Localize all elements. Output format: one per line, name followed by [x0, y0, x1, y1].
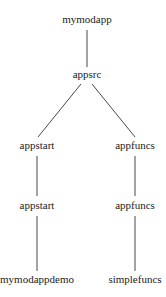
node-appstart: appstart — [20, 139, 55, 151]
node-simplefuncs: simplefuncs — [108, 273, 161, 285]
nodes: mymodapp appsrc appstart appfuncs appsta… — [0, 13, 162, 285]
node-appfuncs: appfuncs — [115, 139, 155, 151]
edge-appsrc-appstart — [38, 84, 81, 137]
edge-appsrc-appfuncs — [92, 84, 135, 137]
node-appsrc: appsrc — [73, 68, 102, 80]
tree-diagram: mymodapp appsrc appstart appfuncs appsta… — [0, 0, 166, 297]
node-mymodappdemo: mymodappdemo — [0, 273, 74, 285]
node-appstart-child: appstart — [20, 199, 55, 211]
node-appfuncs-child: appfuncs — [115, 199, 155, 211]
node-mymodapp: mymodapp — [62, 13, 112, 25]
